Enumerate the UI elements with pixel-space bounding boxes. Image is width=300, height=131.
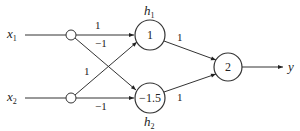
network-diagram: x1 x2 h1 h2 1 −1.5 2 y 1 −1 1 −1 1 1: [0, 0, 300, 131]
edge-h1-out: [164, 41, 216, 60]
diagram-canvas: x1 x2 h1 h2 1 −1.5 2 y 1 −1 1 −1 1 1: [0, 0, 300, 131]
output-label-y: y: [286, 59, 294, 74]
output-threshold: 2: [225, 60, 231, 74]
weight-h1-out: 1: [177, 31, 183, 43]
input-label-x2: x2: [6, 89, 17, 106]
input-node-x2: [66, 93, 76, 103]
weight-x1-h2: −1: [95, 37, 107, 49]
input-node-x1: [66, 30, 76, 40]
h2-threshold: −1.5: [139, 91, 161, 105]
weight-x1-h1: 1: [95, 19, 101, 31]
weight-x2-h1: 1: [84, 65, 90, 77]
input-label-x1: x1: [6, 26, 17, 43]
h1-threshold: 1: [147, 28, 153, 42]
weight-x2-h2: −1: [95, 100, 107, 112]
weight-h2-out: 1: [177, 91, 183, 103]
hidden-label-h2: h2: [144, 114, 155, 131]
edge-h2-out: [164, 74, 216, 92]
hidden-label-h1: h1: [144, 3, 155, 20]
